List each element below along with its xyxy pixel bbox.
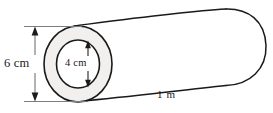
outer-diameter-arrowhead-up <box>32 27 39 36</box>
cylinder-diagram: 6 cm 4 cm 1 m <box>0 0 273 113</box>
cylinder-diagram-canvas <box>0 0 273 113</box>
inner-diameter-label: 4 cm <box>65 58 87 69</box>
length-label: 1 m <box>157 89 176 100</box>
outer-diameter-arrowhead-down <box>32 93 39 102</box>
outer-diameter-label: 6 cm <box>4 57 29 70</box>
